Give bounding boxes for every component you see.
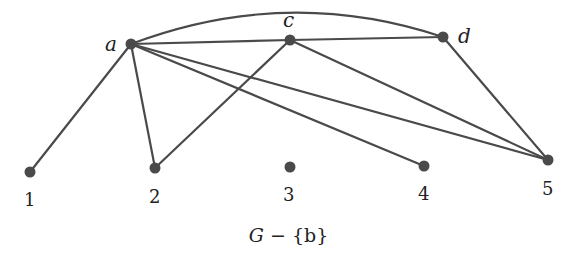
vertex-label-1: 1 <box>24 189 35 210</box>
vertex-c <box>285 35 296 46</box>
vertex-d <box>438 32 449 43</box>
vertex-a <box>126 39 137 50</box>
edge-a-1 <box>30 44 131 172</box>
vertex-label-d: d <box>458 24 471 48</box>
figure-caption: G − {b} <box>0 224 577 246</box>
vertex-5 <box>543 155 554 166</box>
vertex-label-5: 5 <box>542 178 553 199</box>
vertex-label-3: 3 <box>283 184 294 205</box>
vertex-4 <box>419 161 430 172</box>
vertex-2 <box>150 163 161 174</box>
edge-a-c <box>131 40 290 44</box>
vertex-3 <box>285 162 296 173</box>
vertex-label-a: a <box>105 32 117 56</box>
vertex-label-2: 2 <box>149 186 160 207</box>
edge-c-d <box>290 37 443 40</box>
caption-operator: − <box>270 224 286 246</box>
vertex-label-c: c <box>283 8 294 32</box>
caption-removed-set: {b} <box>292 224 328 246</box>
vertex-label-4: 4 <box>418 183 429 204</box>
edge-c-2 <box>155 40 290 168</box>
caption-graph-symbol: G <box>249 224 264 246</box>
edge-d-5 <box>443 37 548 160</box>
graph-diagram: acd12345 <box>0 0 577 258</box>
vertex-1 <box>25 167 36 178</box>
edge-a-2 <box>131 44 155 168</box>
edge-a-5 <box>131 44 548 160</box>
graph-nodes <box>25 32 554 178</box>
